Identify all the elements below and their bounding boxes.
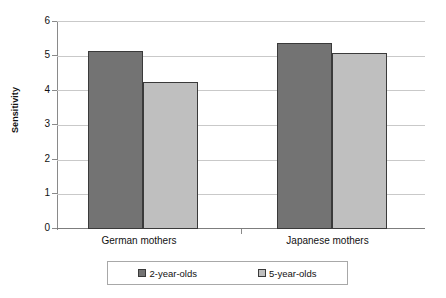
y-tick-label: 1 [28, 188, 50, 198]
legend-swatch-icon [258, 269, 266, 277]
bar-chart: Sensitivity 6 5 4 3 2 1 0 German mothers [0, 0, 446, 298]
chart-legend: 2-year-olds 5-year-olds [107, 261, 348, 285]
legend-swatch-icon [138, 269, 146, 277]
x-axis-tick [241, 229, 242, 234]
gridline-6 [57, 21, 425, 22]
x-category-label-japanese: Japanese mothers [265, 235, 390, 246]
bar-german-2-year-olds [88, 51, 143, 229]
y-tick-label: 5 [28, 50, 50, 60]
plot-area [57, 21, 425, 229]
x-category-label-german: German mothers [79, 235, 199, 246]
legend-entry-5-year-olds: 5-year-olds [228, 268, 348, 279]
legend-label: 5-year-olds [269, 268, 317, 279]
legend-label: 2-year-olds [149, 268, 197, 279]
y-tick-label: 6 [28, 16, 50, 26]
y-tick-label: 4 [28, 85, 50, 95]
legend-entry-2-year-olds: 2-year-olds [108, 268, 228, 279]
bar-japanese-5-year-olds [332, 53, 387, 229]
bar-german-5-year-olds [143, 82, 198, 229]
y-axis-title: Sensitivity [10, 70, 20, 150]
bar-japanese-2-year-olds [277, 43, 332, 229]
y-tick-label: 0 [28, 223, 50, 233]
y-tick-label: 3 [28, 119, 50, 129]
y-tick-label: 2 [28, 154, 50, 164]
